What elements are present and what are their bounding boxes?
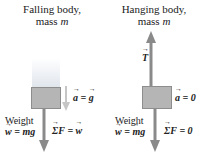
w-symbol: w [115,126,122,137]
accel-symbol: a [73,92,78,103]
weight-eq: w = mg [5,126,35,137]
weight-eq: w = mg [115,126,145,137]
falling-weight-label: Weight w = mg [5,115,35,137]
tension-label: T [142,52,148,63]
mass-var: m [162,15,170,27]
hanging-weight-arrow-icon [150,109,160,152]
hanging-weight-label: Weight w = mg [115,115,145,137]
g-symbol: g [89,92,94,103]
falling-accel-label: a = g [73,92,94,103]
w-symbol: w [5,126,12,137]
falling-net-force-label: ΣF = w [52,125,82,136]
w-symbol: w [76,125,83,136]
mg-symbol: mg [132,126,145,137]
sum-f-symbol: ΣF [52,125,65,136]
accel-arrow-icon [62,86,70,111]
hanging-net-force-label: ΣF = 0 [164,125,193,136]
weight-arrow-icon [39,109,49,152]
hanging-block [142,86,172,109]
t-symbol: T [142,52,148,63]
mass-text: mass [138,15,163,27]
hanging-title-line2: mass m [104,15,204,27]
sum-f-symbol: ΣF [164,125,177,136]
zero-value: 0 [191,92,196,103]
hanging-accel-label: a = 0 [175,92,196,103]
hanging-title-line1: Hanging body, [104,3,204,15]
zero-value: 0 [188,125,193,136]
accel-symbol: a [175,92,180,103]
hanging-body-title: Hanging body, mass m [104,3,204,27]
mg-symbol: mg [22,126,35,137]
